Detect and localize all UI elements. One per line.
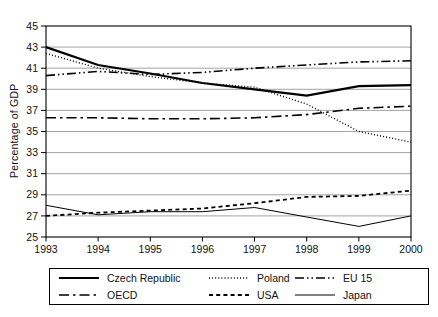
legend-item-oecd: OECD — [58, 289, 208, 301]
x-tick-label-1993: 1993 — [34, 243, 58, 255]
legend-item-poland: Poland — [208, 272, 294, 284]
y-tick-label-27: 27 — [26, 210, 38, 222]
legend-label-oecd: OECD — [107, 289, 137, 301]
legend-label-eu-15: EU 15 — [343, 272, 372, 284]
x-tick-label-1997: 1997 — [243, 243, 267, 255]
legend-sample-czech-republic — [58, 273, 100, 283]
x-tick-label-1996: 1996 — [191, 243, 215, 255]
x-tick-label-1998: 1998 — [295, 243, 319, 255]
gdp-line-chart: 2527293133353739414345199319941995199619… — [0, 0, 438, 262]
legend-sample-poland — [208, 273, 250, 283]
legend-sample-oecd — [58, 290, 100, 300]
x-tick-label-1995: 1995 — [139, 243, 163, 255]
legend: Czech Republic Poland EU 15 OECD USA Jap… — [49, 268, 429, 305]
legend-sample-usa — [208, 290, 250, 300]
y-tick-label-45: 45 — [26, 20, 38, 32]
x-tick-label-1999: 1999 — [347, 243, 371, 255]
y-tick-label-29: 29 — [26, 188, 38, 200]
legend-label-poland: Poland — [257, 272, 290, 284]
series-poland — [46, 53, 411, 142]
legend-item-usa: USA — [208, 289, 294, 301]
x-tick-label-1994: 1994 — [86, 243, 110, 255]
y-tick-label-25: 25 — [26, 231, 38, 243]
y-tick-label-39: 39 — [26, 83, 38, 95]
figure: 2527293133353739414345199319941995199619… — [0, 0, 438, 317]
legend-label-usa: USA — [257, 289, 279, 301]
series-usa — [46, 191, 411, 216]
legend-item-czech-republic: Czech Republic — [58, 272, 208, 284]
y-tick-label-35: 35 — [26, 125, 38, 137]
x-tick-label-2000: 2000 — [399, 243, 423, 255]
y-tick-label-31: 31 — [26, 167, 38, 179]
legend-label-czech-republic: Czech Republic — [107, 272, 181, 284]
legend-item-eu-15: EU 15 — [294, 272, 424, 284]
y-axis-label: Percentage of GDP — [8, 84, 20, 178]
y-tick-label-33: 33 — [26, 146, 38, 158]
legend-sample-eu-15 — [294, 273, 336, 283]
legend-label-japan: Japan — [343, 289, 372, 301]
series-oecd — [46, 106, 411, 119]
y-tick-label-41: 41 — [26, 62, 38, 74]
y-tick-label-43: 43 — [26, 41, 38, 53]
legend-sample-japan — [294, 290, 336, 300]
y-tick-label-37: 37 — [26, 104, 38, 116]
legend-item-japan: Japan — [294, 289, 424, 301]
